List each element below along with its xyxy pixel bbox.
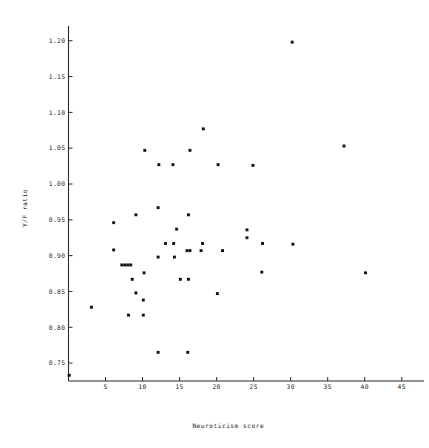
data-point (157, 351, 160, 354)
data-point (120, 264, 123, 267)
data-point (291, 41, 294, 44)
data-point (164, 242, 167, 245)
x-tick-label: 45 (398, 383, 406, 390)
data-point (173, 256, 176, 259)
x-axis-label: Neuroticism score (192, 422, 264, 429)
data-point (157, 256, 160, 259)
y-tick-label: 0.85 (49, 288, 66, 295)
data-point (131, 278, 134, 281)
y-tick-label: 1.05 (49, 144, 66, 151)
data-point (186, 249, 189, 252)
y-tick-label: 1.00 (49, 180, 66, 187)
data-point (343, 145, 346, 148)
x-tick-label: 25 (249, 383, 257, 390)
x-tick-label: 35 (324, 383, 332, 390)
y-tick-label: 1.10 (49, 109, 66, 116)
data-point (68, 374, 71, 377)
data-point (221, 249, 224, 252)
data-point (189, 149, 192, 152)
x-tick-label: 20 (212, 383, 220, 390)
x-tick-label: 5 (103, 383, 107, 390)
data-point (171, 163, 174, 166)
data-point (202, 127, 205, 130)
y-tick-label: 0.75 (49, 359, 66, 366)
data-point (123, 264, 126, 267)
data-point (127, 314, 130, 317)
y-tick-label: 1.15 (49, 73, 66, 80)
y-tick-label: 0.90 (49, 252, 66, 259)
data-point (157, 206, 160, 209)
data-point (142, 314, 145, 317)
data-point (143, 149, 146, 152)
y-tick-label: 0.95 (49, 216, 66, 223)
plot-canvas: 0.750.800.850.900.951.001.051.101.151.20… (0, 0, 429, 448)
x-tick-label: 10 (138, 383, 146, 390)
data-point (134, 213, 137, 216)
scatter-plot-figure: 0.750.800.850.900.951.001.051.101.151.20… (0, 0, 429, 448)
data-point (364, 271, 367, 274)
data-point (201, 242, 204, 245)
axes-group (69, 26, 425, 381)
data-point (189, 249, 192, 252)
x-axis-ticks: 51015202530354045 (103, 377, 406, 390)
data-point (216, 292, 219, 295)
x-tick-label: 40 (361, 383, 369, 390)
data-point (143, 271, 146, 274)
data-point (200, 249, 203, 252)
data-point (179, 278, 182, 281)
data-point (134, 291, 137, 294)
data-point (186, 351, 189, 354)
data-point (291, 243, 294, 246)
data-point (261, 242, 264, 245)
y-tick-label: 1.20 (49, 37, 66, 44)
data-point (126, 264, 129, 267)
data-point (246, 228, 249, 231)
data-point (90, 306, 93, 309)
data-point (129, 264, 132, 267)
data-point (246, 236, 249, 239)
data-point (142, 299, 145, 302)
data-point (260, 271, 263, 274)
data-point (112, 221, 115, 224)
data-point (175, 228, 178, 231)
data-point (172, 242, 175, 245)
data-point (112, 248, 115, 251)
x-tick-label: 30 (286, 383, 294, 390)
y-axis-label: Y/F ratio (21, 189, 28, 227)
data-point (157, 163, 160, 166)
data-point (187, 213, 190, 216)
y-tick-label: 0.80 (49, 324, 66, 331)
x-tick-label: 15 (175, 383, 183, 390)
data-point (217, 163, 220, 166)
data-points-group (68, 41, 367, 377)
data-point (251, 164, 254, 167)
data-point (187, 278, 190, 281)
